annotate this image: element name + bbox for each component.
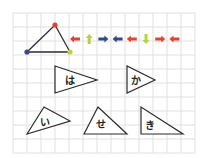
arrow-left-icon	[127, 36, 137, 43]
green-vertex	[67, 49, 72, 54]
triangle-0: は	[55, 66, 97, 93]
arrow-right-icon	[98, 36, 108, 43]
arrow-down-icon	[143, 34, 150, 44]
triangle-1: か	[127, 66, 155, 93]
arrow-left-icon	[113, 36, 123, 43]
triangle-label: せ	[96, 119, 106, 130]
diagram-canvas: はかいせき	[0, 0, 207, 158]
triangle-label: き	[145, 120, 155, 131]
arrow-up-icon	[86, 34, 93, 44]
arrow-left-icon	[169, 36, 179, 43]
triangle-label: い	[40, 117, 50, 128]
labeled-triangles: はかいせき	[27, 66, 183, 134]
triangle-label: か	[131, 75, 141, 86]
blue-vertex	[24, 49, 29, 54]
arrow-right-icon	[155, 36, 165, 43]
arrow-left-icon	[70, 36, 80, 43]
red-vertex	[52, 22, 57, 27]
reference-triangle-outline	[27, 25, 70, 52]
triangle-outline	[55, 66, 97, 93]
triangle-label: は	[65, 75, 75, 86]
